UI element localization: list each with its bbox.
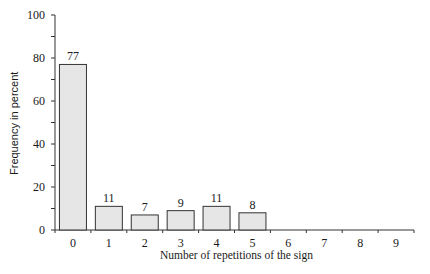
x-tick-label: 8 xyxy=(357,236,363,250)
x-tick-label: 6 xyxy=(285,236,291,250)
bar xyxy=(167,211,194,230)
x-axis-label: Number of repetitions of the sign xyxy=(160,249,313,261)
y-tick-label: 100 xyxy=(27,8,45,22)
bar-value-label: 77 xyxy=(67,49,79,63)
x-tick-label: 4 xyxy=(214,236,220,250)
y-tick-label: 40 xyxy=(33,137,45,151)
x-tick-label: 9 xyxy=(393,236,399,250)
bar-value-label: 9 xyxy=(178,196,184,210)
bar-value-label: 8 xyxy=(249,198,255,212)
bar-value-label: 7 xyxy=(142,200,148,214)
x-tick-label: 2 xyxy=(142,236,148,250)
bars: 771179118 xyxy=(59,49,266,230)
x-axis: 0123456789 xyxy=(55,230,414,250)
bar xyxy=(239,213,266,230)
x-tick-label: 0 xyxy=(70,236,76,250)
bar-value-label: 11 xyxy=(211,191,223,205)
y-tick-label: 80 xyxy=(33,51,45,65)
bar xyxy=(203,206,230,230)
y-tick-label: 0 xyxy=(39,223,45,237)
bar xyxy=(131,215,158,230)
x-tick-label: 1 xyxy=(106,236,112,250)
y-axis: 020406080100 xyxy=(27,8,55,237)
y-axis-label: Frequency in percent xyxy=(8,72,20,175)
x-tick-label: 5 xyxy=(249,236,255,250)
bar-chart: 020406080100 0123456789 771179118 xyxy=(0,0,430,274)
x-tick-label: 3 xyxy=(178,236,184,250)
y-tick-label: 60 xyxy=(33,94,45,108)
bar xyxy=(59,64,86,230)
x-tick-label: 7 xyxy=(321,236,327,250)
bar xyxy=(95,206,122,230)
y-tick-label: 20 xyxy=(33,180,45,194)
bar-value-label: 11 xyxy=(103,191,115,205)
